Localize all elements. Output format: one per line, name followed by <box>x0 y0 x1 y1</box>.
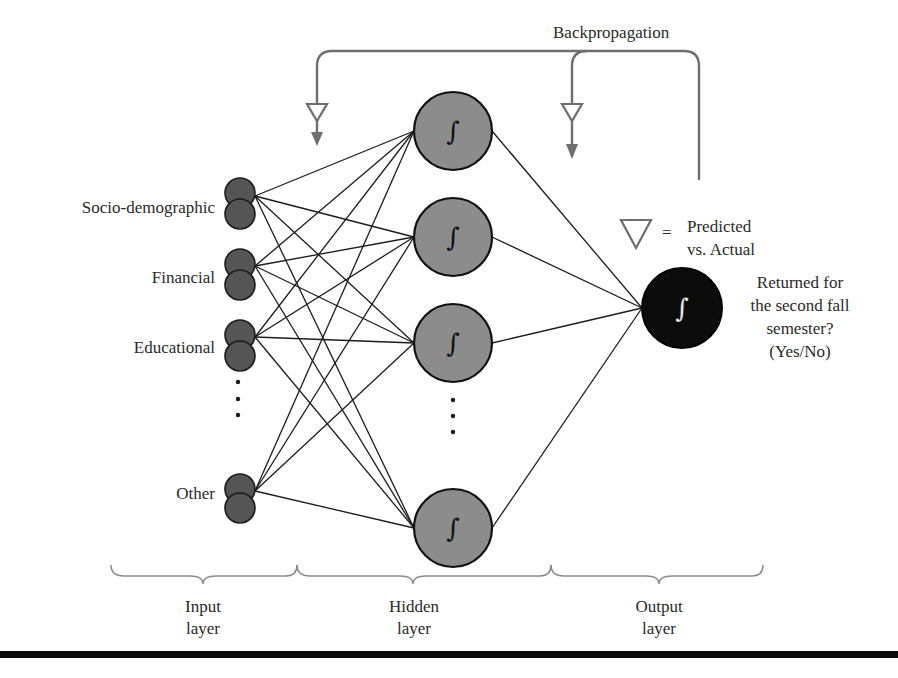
layer-braces <box>111 565 763 584</box>
arrow-down-icon <box>311 132 323 146</box>
neural-network-diagram: Backpropagation = Predicted vs. Actual <box>0 0 898 678</box>
backpropagation-title: Backpropagation <box>553 23 670 42</box>
legend-line-1: Predicted <box>687 217 752 236</box>
input-layer-label-1: Input <box>185 597 221 616</box>
integral-icon: ∫ <box>446 328 460 358</box>
input-label: Educational <box>134 338 215 357</box>
input-node-other: Other <box>176 474 255 523</box>
output-question-line: semester? <box>766 319 833 338</box>
hidden-layer: ∫ ∫ ∫ ∫ <box>414 92 492 567</box>
integral-icon: ∫ <box>446 116 460 146</box>
legend: = Predicted vs. Actual <box>621 217 755 259</box>
output-layer: ∫ Returned for the second fall semester?… <box>642 268 850 361</box>
legend-triangle-icon <box>621 220 651 248</box>
output-question-line: (Yes/No) <box>769 342 831 361</box>
hidden-node: ∫ <box>414 304 492 382</box>
legend-equals: = <box>662 223 672 242</box>
hidden-node: ∫ <box>414 489 492 567</box>
integral-icon: ∫ <box>446 513 460 543</box>
legend-line-2: vs. Actual <box>687 240 755 259</box>
input-label: Other <box>176 484 215 503</box>
input-label: Socio-demographic <box>82 198 216 217</box>
output-question-line: the second fall <box>750 296 849 315</box>
output-layer-label-1: Output <box>635 597 683 616</box>
figure-divider-rule <box>0 651 898 658</box>
hidden-layer-label-2: layer <box>397 619 431 638</box>
input-layer-label-2: layer <box>186 619 220 638</box>
hidden-node: ∫ <box>414 92 492 170</box>
input-node-socio-demographic: Socio-demographic <box>82 178 255 229</box>
input-hidden-edges <box>255 131 414 528</box>
backprop-branch-line <box>572 51 587 103</box>
input-layer-brace <box>111 565 297 584</box>
hidden-ellipsis <box>451 398 455 434</box>
output-question: Returned for the second fall semester? (… <box>750 273 849 361</box>
input-node-educational: Educational <box>134 320 255 371</box>
input-label: Financial <box>152 268 216 287</box>
hidden-output-edges <box>492 131 642 528</box>
integral-icon: ∫ <box>446 222 460 252</box>
triangle-icon <box>307 104 327 121</box>
input-ellipsis <box>236 380 240 417</box>
output-layer-label-2: layer <box>642 619 676 638</box>
output-layer-brace <box>551 565 763 584</box>
hidden-layer-brace <box>297 565 551 584</box>
hidden-node: ∫ <box>414 198 492 276</box>
input-layer: Socio-demographic Financial Educational … <box>82 178 255 523</box>
output-question-line: Returned for <box>757 273 844 292</box>
input-node-financial: Financial <box>152 249 255 300</box>
backprop-main-line <box>317 51 699 180</box>
backpropagation-path: Backpropagation <box>307 23 699 180</box>
layer-labels: Input layer Hidden layer Output layer <box>185 597 683 638</box>
hidden-layer-label-1: Hidden <box>389 597 440 616</box>
triangle-icon <box>562 104 582 121</box>
integral-icon: ∫ <box>675 293 689 323</box>
output-node: ∫ <box>642 268 722 348</box>
arrow-down-icon <box>566 144 578 159</box>
